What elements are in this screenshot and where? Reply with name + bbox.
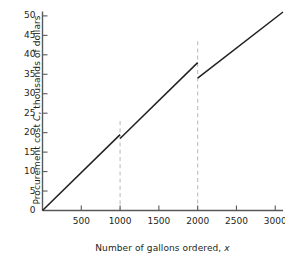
procurement-cost-chart: Procurement cost C, thousands of dollars… [0, 0, 285, 263]
data-series [43, 12, 284, 211]
guide-lines [120, 41, 198, 210]
axis-lines [43, 12, 284, 211]
cost-line-segment-1 [43, 135, 121, 211]
cost-line-segment-3 [198, 12, 283, 78]
plot-area [0, 0, 285, 263]
cost-line-segment-2 [120, 63, 198, 139]
